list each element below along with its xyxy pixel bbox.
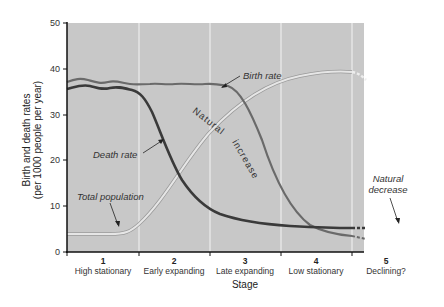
total-population-label: Total population — [77, 191, 144, 202]
birth-rate-label: Birth rate — [243, 70, 282, 81]
stage-number: 3 — [243, 256, 248, 266]
plot-area — [67, 23, 364, 252]
x-axis-title: Stage — [232, 279, 259, 290]
stage-name: Late expanding — [216, 266, 274, 276]
y-axis-title-line2: (per 1000 people per year) — [32, 81, 43, 199]
stage-name: Low stationary — [289, 266, 345, 276]
y-tick-label: 40 — [50, 64, 60, 74]
demographic-transition-chart: 50 40 30 20 10 0 1 High stationary 2 Ear… — [0, 0, 444, 307]
y-tick-label: 50 — [50, 18, 60, 28]
stage-number: 1 — [101, 256, 106, 266]
y-tick-label: 0 — [55, 247, 60, 257]
stage-number: 4 — [314, 256, 319, 266]
arrowhead-icon — [395, 218, 400, 224]
y-tick-label: 30 — [50, 110, 60, 120]
natural-decrease-label-2: decrease — [368, 184, 407, 195]
stage-name: Early expanding — [144, 266, 205, 276]
stage-labels: 1 High stationary 2 Early expanding 3 La… — [75, 256, 406, 276]
y-tick-label: 10 — [50, 201, 60, 211]
y-axis-title: Birth and death rates (per 1000 people p… — [21, 81, 43, 199]
y-axis-title-line1: Birth and death rates — [21, 94, 32, 187]
stage-name: High stationary — [75, 266, 132, 276]
y-tick-labels: 50 40 30 20 10 0 — [50, 18, 60, 257]
death-rate-label: Death rate — [93, 149, 137, 160]
stage-number: 5 — [384, 256, 389, 266]
stage-name: Declining? — [366, 266, 406, 276]
natural-decrease-label-1: Natural — [373, 173, 405, 184]
stage-number: 2 — [172, 256, 177, 266]
y-tick-label: 20 — [50, 155, 60, 165]
